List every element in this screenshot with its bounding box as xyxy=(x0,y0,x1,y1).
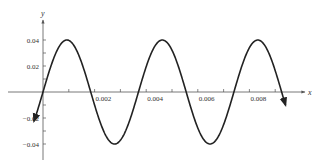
x-tick-label: 0.002 xyxy=(96,95,112,103)
x-tick-label: 0.004 xyxy=(147,95,163,103)
y-tick-label: −0.02 xyxy=(23,115,40,123)
y-axis-label: y xyxy=(40,9,45,18)
y-tick-label: 0.02 xyxy=(27,63,40,71)
sine-wave-chart: 0.0020.0040.0060.0080.040.02−0.02−0.04 x… xyxy=(0,0,323,167)
x-tick-label: 0.008 xyxy=(250,95,266,103)
y-tick-label: −0.04 xyxy=(23,141,40,149)
tick-labels: 0.0020.0040.0060.0080.040.02−0.02−0.04 xyxy=(23,37,267,149)
y-tick-label: 0.04 xyxy=(27,37,40,45)
x-tick-label: 0.006 xyxy=(199,95,215,103)
x-axis-label: x xyxy=(307,88,312,97)
